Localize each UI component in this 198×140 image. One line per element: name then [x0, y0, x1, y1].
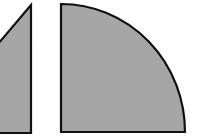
- diagram-canvas: [0, 0, 198, 140]
- quarter-circle-shape: [61, 4, 185, 132]
- triangular-wedge-shape: [0, 5, 31, 133]
